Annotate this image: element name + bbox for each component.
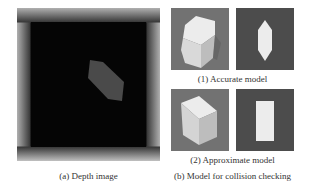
caption-depth-image: (a) Depth image	[17, 171, 160, 181]
elongated-hexagon-icon	[236, 8, 294, 70]
rectangle-icon	[236, 89, 294, 151]
accurate-model-render	[171, 8, 229, 70]
caption-model-collision-checking: (b) Model for collision checking	[165, 171, 300, 181]
hexagonal-prism-icon	[171, 8, 229, 70]
approximate-model-silhouette	[236, 89, 294, 151]
depth-image	[17, 8, 160, 161]
caption-accurate-model: (1) Accurate model	[171, 74, 294, 84]
accurate-model-silhouette	[236, 8, 294, 70]
depth-object-hexagon	[17, 8, 160, 161]
cuboid-icon	[171, 89, 229, 151]
caption-approximate-model: (2) Approximate model	[171, 155, 294, 165]
approximate-model-render	[171, 89, 229, 151]
